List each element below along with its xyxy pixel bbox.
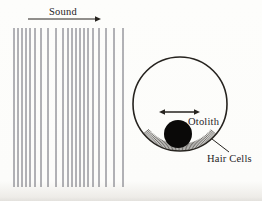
hair-cells-leader-line (212, 139, 229, 152)
diagram-canvas: Sound Otolith Hair Cells (0, 0, 262, 201)
otolith-motion-arrow-icon (159, 109, 200, 114)
sound-wave-lines (14, 28, 123, 187)
otolith-sound-diagram: Sound Otolith Hair Cells (0, 0, 262, 201)
sound-direction-arrow-icon (28, 16, 101, 21)
sound-label: Sound (49, 6, 77, 17)
hair-cells-label: Hair Cells (207, 153, 252, 164)
otolith-label: Otolith (188, 116, 220, 127)
